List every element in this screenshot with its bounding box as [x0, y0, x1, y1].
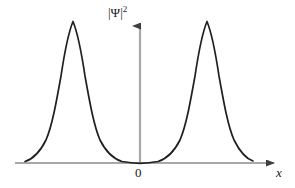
- probability-density-figure: |Ψ|2 x 0: [0, 0, 295, 188]
- y-axis-label: |Ψ|2: [108, 6, 127, 19]
- y-axis-label-text: |Ψ|: [108, 5, 123, 20]
- x-axis-label: x: [276, 166, 282, 179]
- plot-canvas: [0, 0, 295, 188]
- y-axis-label-exponent: 2: [123, 4, 128, 14]
- origin-label: 0: [135, 166, 142, 179]
